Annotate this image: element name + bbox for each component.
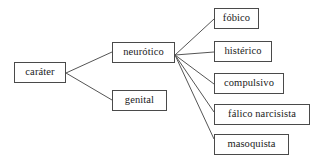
character-typology-diagram: caráter neurótico genital fóbico histéri…	[0, 0, 322, 161]
node-masoquista[interactable]: masoquista	[214, 134, 289, 155]
edge-carater-to-neurotico	[66, 52, 112, 73]
connector-lines	[66, 19, 214, 139]
node-falico-narcisista[interactable]: fálico narcisista	[214, 104, 310, 125]
edge-neurotico-to-masoquista	[175, 55, 214, 139]
node-label: fálico narcisista	[228, 109, 296, 120]
node-genital[interactable]: genital	[112, 90, 167, 111]
node-label: compulsivo	[224, 78, 274, 89]
node-label: genital	[125, 95, 154, 106]
edge-neurotico-to-histerico	[175, 52, 214, 55]
node-fobico[interactable]: fóbico	[214, 8, 259, 29]
node-neurotico[interactable]: neurótico	[112, 42, 175, 63]
edge-neurotico-to-falico	[175, 55, 214, 112]
node-label: caráter	[25, 67, 54, 78]
node-label: histérico	[224, 46, 261, 57]
node-histerico[interactable]: histérico	[214, 41, 272, 62]
edge-carater-to-genital	[66, 73, 112, 100]
node-label: fóbico	[223, 13, 250, 24]
node-compulsivo[interactable]: compulsivo	[214, 73, 284, 94]
edge-neurotico-to-compulsivo	[175, 55, 214, 84]
node-label: masoquista	[227, 139, 275, 150]
edge-neurotico-to-fobico	[175, 19, 214, 55]
node-carater[interactable]: caráter	[14, 62, 66, 83]
node-label: neurótico	[123, 47, 164, 58]
